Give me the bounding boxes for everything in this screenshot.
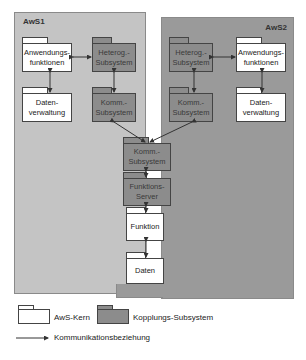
communication-arrows xyxy=(0,0,306,360)
legend-aws-kern-label: AwS-Kern xyxy=(54,313,90,322)
legend-kopplungs-subsystem-label: Kopplungs-Subsystem xyxy=(133,313,213,322)
legend-kommunikation-label: Kommunikationsbeziehung xyxy=(54,333,150,342)
